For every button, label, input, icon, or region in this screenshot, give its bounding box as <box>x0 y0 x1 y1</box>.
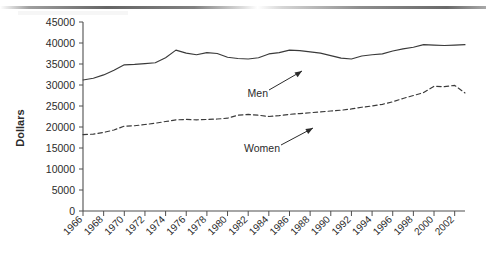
x-axis-tick-label: 1970 <box>102 213 126 237</box>
x-axis-tick-group: 1966196819701972197419761978198019821984… <box>61 211 456 237</box>
y-axis-tick-label: 45000 <box>46 16 75 28</box>
x-axis-tick-label: 1988 <box>288 213 312 237</box>
x-axis-tick-label: 1972 <box>123 213 147 237</box>
x-axis-tick-label: 1966 <box>61 213 85 237</box>
women-annotation: Women <box>244 128 313 154</box>
line-chart: 0500010000150002000025000300003500040000… <box>0 0 486 264</box>
y-axis-tick-label: 15000 <box>46 142 75 154</box>
x-axis-tick-label: 1968 <box>82 213 106 237</box>
x-axis-tick-label: 2002 <box>433 213 457 237</box>
y-axis-tick-label: 25000 <box>46 100 75 112</box>
x-axis-tick-label: 1990 <box>309 213 333 237</box>
y-axis-tick-label: 5000 <box>52 184 76 196</box>
x-axis-tick-label: 1976 <box>164 213 188 237</box>
y-axis-tick-label: 30000 <box>46 79 75 91</box>
series-line-women <box>83 85 465 134</box>
y-axis-tick-label: 35000 <box>46 58 75 70</box>
y-axis-tick-group: 0500010000150002000025000300003500040000… <box>46 16 83 217</box>
x-axis-tick-label: 1982 <box>226 213 250 237</box>
x-axis-tick-label: 1984 <box>247 213 271 237</box>
x-axis-tick-label: 1992 <box>329 213 353 237</box>
x-axis-tick-label: 1978 <box>185 213 209 237</box>
series-line-men <box>83 45 465 80</box>
x-axis-tick-label: 2000 <box>412 213 436 237</box>
men-annotation: Men <box>248 71 302 99</box>
y-axis-tick-label: 20000 <box>46 121 75 133</box>
series-label-women: Women <box>244 142 280 154</box>
y-axis-title: Dollars <box>14 109 26 146</box>
y-axis-tick-label: 40000 <box>46 37 75 49</box>
x-axis-tick-label: 1980 <box>205 213 229 237</box>
series-label-men: Men <box>248 87 269 99</box>
women-pointer-arrowhead <box>305 128 313 134</box>
x-axis-tick-label: 1974 <box>143 213 167 237</box>
men-pointer-arrowhead <box>295 71 303 77</box>
y-axis-tick-label: 10000 <box>46 163 75 175</box>
x-axis-tick-label: 1998 <box>391 213 415 237</box>
chart-container: 0500010000150002000025000300003500040000… <box>0 0 486 264</box>
x-axis-tick-label: 1994 <box>350 213 374 237</box>
x-axis-tick-label: 1986 <box>267 213 291 237</box>
x-axis-tick-label: 1996 <box>371 213 395 237</box>
